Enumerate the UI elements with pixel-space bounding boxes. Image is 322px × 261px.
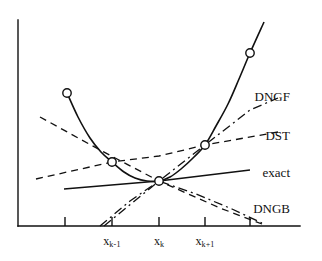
tick-label-subscript: k+1 [201, 240, 214, 249]
curve-label-dst: DST [265, 129, 290, 142]
tick-label-subscript: k-1 [109, 240, 120, 249]
x-tick-label-0: xk-1 [103, 235, 120, 249]
x-tick-label-2: xk+1 [195, 235, 214, 249]
series-line-objective-function [67, 22, 264, 181]
axes-group [18, 20, 300, 226]
data-point-marker-4 [246, 49, 254, 57]
series-line-dngf [104, 98, 278, 226]
data-point-marker-2 [155, 177, 163, 185]
curve-label-dngf: DNGF [255, 90, 290, 103]
data-series-group [36, 22, 278, 226]
series-line-dngb [100, 181, 262, 226]
figure-root: DNGFDSTexactDNGB xk-1xkxk+1 [0, 0, 322, 261]
tick-label-subscript: k [160, 240, 164, 249]
x-axis-ticks [65, 217, 250, 226]
curve-label-exact: exact [263, 166, 290, 179]
data-point-marker-3 [201, 141, 209, 149]
x-tick-label-1: xk [154, 235, 164, 249]
series-line-dst [36, 132, 278, 179]
data-point-markers [63, 49, 254, 185]
data-point-marker-0 [63, 89, 71, 97]
curve-label-dngb: DNGB [253, 202, 290, 215]
data-point-marker-1 [108, 158, 116, 166]
